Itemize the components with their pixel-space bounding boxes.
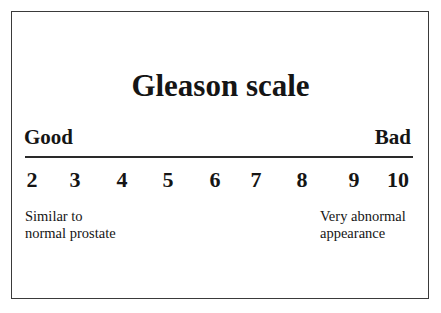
scale-right-label: Bad: [375, 124, 411, 150]
scale-value: 9: [349, 166, 360, 194]
scale-value: 2: [27, 166, 38, 194]
right-description-line: appearance: [320, 225, 406, 242]
diagram-title: Gleason scale: [0, 68, 441, 104]
scale-value: 3: [70, 166, 81, 194]
right-description-line: Very abnormal: [320, 208, 406, 225]
scale-line: [25, 156, 413, 158]
right-description: Very abnormal appearance: [320, 208, 406, 241]
scale-value: 7: [251, 166, 262, 194]
left-description-line: Similar to: [25, 208, 116, 225]
scale-value: 8: [297, 166, 308, 194]
scale-left-label: Good: [24, 124, 73, 150]
scale-value: 4: [117, 166, 128, 194]
scale-value: 10: [387, 166, 409, 194]
scale-value: 6: [210, 166, 221, 194]
diagram-frame: [11, 11, 429, 299]
scale-value: 5: [163, 166, 174, 194]
left-description: Similar to normal prostate: [25, 208, 116, 241]
left-description-line: normal prostate: [25, 225, 116, 242]
